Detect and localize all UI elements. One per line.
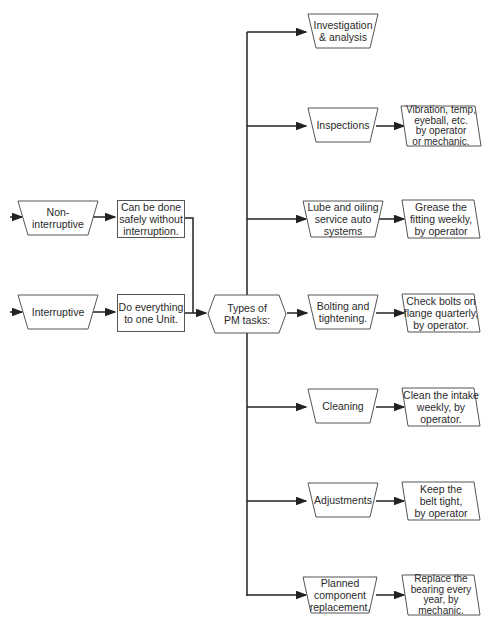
input-interruptive: Interruptive	[17, 294, 99, 330]
task-label: Planned component replacement.	[310, 577, 371, 613]
task-investigation: Investigation & analysis	[307, 13, 379, 49]
task-bolting: Bolting and tightening.	[307, 294, 379, 330]
task-label: Inspections	[316, 119, 369, 131]
detail-text: Replace the bearing every year, by mecha…	[411, 574, 472, 616]
note-text: Can be done safely without interruption.	[119, 201, 183, 237]
task-label: Investigation & analysis	[314, 19, 373, 43]
detail-text: Grease the fitting weekly, by operator	[410, 201, 472, 237]
task-label: Adjustments	[314, 494, 372, 506]
detail-lube-oiling: Grease the fitting weekly, by operator	[401, 199, 481, 239]
detail-text: Keep the belt tight, by operator	[414, 483, 467, 519]
task-lube-oiling: Lube and oiling service auto systems	[302, 200, 384, 238]
detail-cleaning: Clean the intake weekly, by operator.	[401, 387, 481, 427]
input-label: Non- interruptive	[32, 206, 84, 230]
input-non-interruptive: Non- interruptive	[17, 200, 99, 236]
task-inspections: Inspections	[307, 107, 379, 143]
task-label: Cleaning	[322, 400, 363, 412]
detail-inspections: Vibration, temp, eyeball, etc. by operat…	[400, 105, 482, 147]
task-planned-replacement: Planned component replacement.	[302, 576, 378, 614]
detail-bolting: Check bolts on flange quarterly, by oper…	[401, 293, 481, 333]
hub-types-of-pm-tasks: Types of PM tasks:	[207, 294, 287, 334]
detail-text: Check bolts on flange quarterly, by oper…	[404, 295, 479, 331]
note-text: Do everything to one Unit.	[119, 301, 184, 325]
hub-label: Types of PM tasks:	[224, 302, 270, 326]
task-adjustments: Adjustments	[307, 482, 379, 518]
detail-text: Vibration, temp, eyeball, etc. by operat…	[406, 105, 476, 147]
note-interruptive: Do everything to one Unit.	[117, 294, 185, 332]
task-label: Lube and oiling service auto systems	[307, 201, 378, 237]
note-non-interruptive: Can be done safely without interruption.	[117, 200, 185, 238]
task-label: Bolting and tightening.	[317, 300, 370, 324]
detail-text: Clean the intake weekly, by operator.	[403, 389, 479, 425]
input-label: Interruptive	[32, 306, 85, 318]
detail-planned-replacement: Replace the bearing every year, by mecha…	[401, 574, 481, 616]
task-cleaning: Cleaning	[307, 388, 379, 424]
detail-adjustments: Keep the belt tight, by operator	[401, 481, 481, 521]
